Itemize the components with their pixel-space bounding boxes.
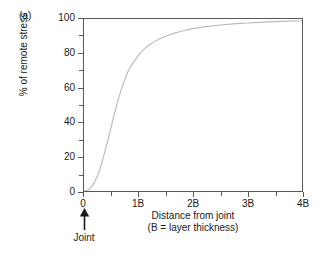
joint-label: Joint xyxy=(62,232,106,243)
x-axis-tick-label: 2B xyxy=(178,199,208,209)
x-axis-tick xyxy=(276,192,277,196)
plot-area xyxy=(83,18,303,192)
y-axis-title: % of remote stress xyxy=(18,5,29,105)
y-axis-tick xyxy=(79,175,83,176)
x-axis-title-line1: Distance from joint xyxy=(152,210,235,221)
x-axis-title: Distance from joint (B = layer thickness… xyxy=(83,210,303,234)
x-axis-tick xyxy=(221,192,222,196)
x-axis-tick xyxy=(138,192,139,197)
y-axis-tick-label: 20 xyxy=(49,152,75,162)
x-axis-tick-label: 3B xyxy=(233,199,263,209)
x-axis-tick xyxy=(193,192,194,197)
x-axis-tick xyxy=(303,192,304,197)
x-axis-tick-label: 4B xyxy=(288,199,318,209)
x-axis-tick xyxy=(166,192,167,196)
x-axis-tick-label: 1B xyxy=(123,199,153,209)
y-axis-tick xyxy=(78,157,83,158)
x-axis-tick xyxy=(248,192,249,197)
stress-recovery-curve xyxy=(84,19,302,191)
x-axis-title-line2: (B = layer thickness) xyxy=(83,222,303,234)
x-axis-tick-label: 0 xyxy=(68,199,98,209)
y-axis-tick xyxy=(78,122,83,123)
up-arrow-icon xyxy=(78,208,91,230)
y-axis-tick xyxy=(79,35,83,36)
y-axis-tick xyxy=(78,88,83,89)
y-axis-tick xyxy=(78,53,83,54)
y-axis-tick xyxy=(79,70,83,71)
figure-panel: (a) % of remote stress Distance from joi… xyxy=(0,0,321,262)
x-axis-tick xyxy=(83,192,84,197)
y-axis-tick-label: 0 xyxy=(49,187,75,197)
y-axis-tick-label: 80 xyxy=(49,48,75,58)
joint-annotation: Joint xyxy=(62,208,106,243)
y-axis-tick xyxy=(79,105,83,106)
y-axis-tick-label: 100 xyxy=(49,13,75,23)
x-axis-tick xyxy=(111,192,112,196)
y-axis-tick xyxy=(78,18,83,19)
y-axis-tick xyxy=(79,140,83,141)
y-axis-tick-label: 40 xyxy=(49,117,75,127)
y-axis-tick-label: 60 xyxy=(49,83,75,93)
